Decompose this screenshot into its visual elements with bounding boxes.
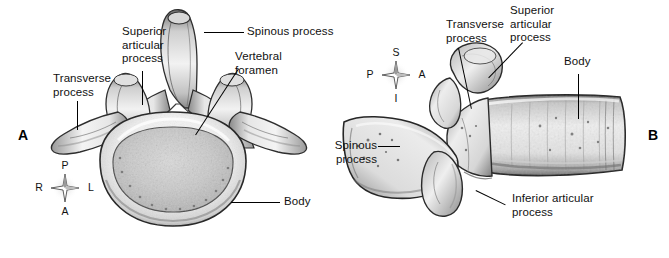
rosette-dir-north: P bbox=[55, 159, 75, 171]
panel-lateral-view: Transverse process Superior articular pr… bbox=[334, 0, 669, 258]
label-spinous-process: Spinous process bbox=[329, 139, 377, 166]
label-superior-articular-process: Superior articular process bbox=[122, 25, 192, 66]
rosette-dir-east: A bbox=[412, 68, 432, 80]
compass-star-icon bbox=[50, 173, 80, 203]
orientation-rosette-superior: P A R L bbox=[35, 160, 95, 216]
rosette-dir-south: I bbox=[386, 92, 406, 104]
panel-letter-a: A bbox=[18, 127, 28, 143]
rosette-dir-north: S bbox=[386, 46, 406, 58]
label-body: Body bbox=[284, 195, 334, 209]
label-vertebral-foramen: Vertebral foramen bbox=[235, 50, 315, 77]
leader-transverse-process bbox=[77, 101, 78, 130]
label-inferior-articular-process: Inferior articular process bbox=[512, 192, 622, 219]
label-transverse-process: Transverse process bbox=[53, 72, 129, 99]
anatomy-figure: Transverse process Superior articular pr… bbox=[0, 0, 669, 258]
rosette-dir-west: P bbox=[360, 68, 380, 80]
leader-spinous-process bbox=[204, 32, 244, 33]
leader-superior-articular-process bbox=[142, 71, 143, 105]
leader-spinous-process bbox=[378, 146, 400, 147]
leader-body bbox=[578, 74, 579, 119]
label-superior-articular-process: Superior articular process bbox=[510, 4, 582, 45]
orientation-rosette-lateral: S I P A bbox=[366, 47, 426, 103]
panel-superior-view: Transverse process Superior articular pr… bbox=[0, 0, 334, 258]
panel-letter-b: B bbox=[648, 127, 658, 143]
rosette-dir-east: L bbox=[81, 181, 101, 193]
leader-body bbox=[231, 202, 280, 203]
label-body: Body bbox=[564, 55, 614, 69]
rosette-dir-west: R bbox=[29, 181, 49, 193]
rosette-dir-south: A bbox=[55, 205, 75, 217]
label-spinous-process: Spinous process bbox=[247, 25, 337, 39]
compass-star-icon bbox=[381, 60, 411, 90]
